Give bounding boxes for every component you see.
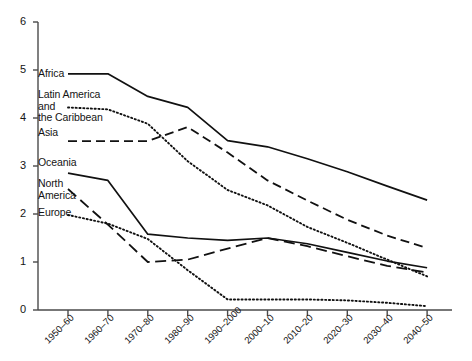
series-line-latin-america-and-the-caribbean <box>68 107 427 276</box>
series-line-asia <box>68 127 427 248</box>
line-chart: 0123456 1950–601960–701970–801980–901990… <box>0 0 472 361</box>
chart-axes <box>33 22 452 316</box>
series-label-latin-america-and-the-caribbean: Latin America and the Caribbean <box>38 89 103 124</box>
y-axis-tick-label: 6 <box>10 15 26 27</box>
y-axis-tick-label: 4 <box>10 111 26 123</box>
y-axis-tick-label: 2 <box>10 207 26 219</box>
series-label-north-america: North America <box>38 178 76 201</box>
series-label-asia: Asia <box>38 127 58 139</box>
series-label-oceania: Oceania <box>38 157 76 169</box>
chart-series-lines <box>68 74 427 306</box>
y-axis-tick-label: 3 <box>10 159 26 171</box>
y-axis-tick-label: 1 <box>10 255 26 267</box>
series-line-europe <box>68 215 427 306</box>
series-line-africa <box>68 74 427 200</box>
series-label-africa: Africa <box>38 68 64 80</box>
y-axis-tick-label: 0 <box>10 303 26 315</box>
series-line-north-america <box>68 189 427 273</box>
series-label-europe: Europe <box>38 207 71 219</box>
y-axis-tick-label: 5 <box>10 63 26 75</box>
